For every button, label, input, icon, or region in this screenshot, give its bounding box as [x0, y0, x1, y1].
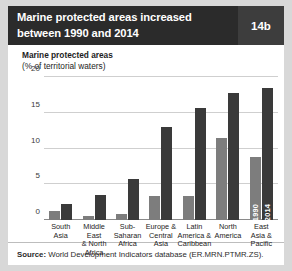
x-axis-category-label-line: Caribbean [178, 240, 212, 249]
bar-inline-label-2014: 2014 [263, 204, 272, 221]
bar-group [178, 77, 211, 220]
bar-2014[interactable] [161, 127, 172, 220]
chart-area: Marine protected areas (% of territorial… [8, 45, 284, 242]
y-axis-tick-label: 10 [31, 135, 40, 144]
x-axis-category-label: Europe &CentralAsia [144, 223, 177, 257]
x-axis-category-label-line: America [211, 232, 244, 241]
y-axis-tick-label: 0 [36, 207, 40, 216]
y-axis-tick-label: 20 [31, 64, 40, 73]
x-axis-category-label: Sub-SaharanAfrica [111, 223, 144, 257]
bar-1990[interactable] [149, 196, 160, 220]
bar-1990[interactable] [116, 214, 127, 220]
bar-1990[interactable] [216, 138, 227, 220]
bar-1990[interactable] [183, 196, 194, 220]
title-line-2: between 1990 and 2014 [17, 26, 232, 42]
bar-group: 19902014 [245, 77, 278, 220]
bar-group [77, 77, 110, 220]
bar-2014[interactable] [95, 195, 106, 220]
y-axis-tick-label: 5 [36, 171, 40, 180]
bar-1990[interactable] [49, 211, 60, 220]
x-axis-labels: SouthAsiaMiddle East& NorthAfricaSub-Sah… [44, 223, 278, 257]
bar-2014[interactable] [61, 204, 72, 220]
x-axis-category-label-line: Africa [111, 240, 144, 249]
bar-1990[interactable]: 1990 [250, 157, 261, 220]
plot-region: 05101520 19902014 [44, 77, 278, 220]
bar-inline-label-1990: 1990 [251, 204, 260, 221]
page-title: Marine protected areas increased between… [17, 10, 232, 41]
axis-title-line-1: Marine protected areas [22, 50, 113, 61]
bar-2014[interactable] [228, 93, 239, 220]
figure-header: Marine protected areas increased between… [8, 6, 284, 45]
figure-number-badge: 14b [238, 6, 284, 45]
bar-2014[interactable] [128, 179, 139, 220]
bar-group [111, 77, 144, 220]
x-axis-category-label-line: Pacific [245, 240, 278, 249]
y-axis-tick-label: 15 [31, 99, 40, 108]
source-label: Source: [17, 250, 46, 259]
bar-group [211, 77, 244, 220]
title-line-1: Marine protected areas increased [17, 10, 232, 26]
x-axis-category-label: NorthAmerica [211, 223, 244, 257]
x-axis-category-label: Middle East& NorthAfrica [77, 223, 110, 257]
bar-group [144, 77, 177, 220]
bar-group [44, 77, 77, 220]
bar-2014[interactable] [195, 108, 206, 220]
x-axis-category-label-line: Asia [144, 240, 177, 249]
x-axis-category-label-line: Asia [44, 232, 77, 241]
bar-groups: 19902014 [44, 77, 278, 220]
x-axis-category-label: EastAsia &Pacific [245, 223, 278, 257]
x-axis-category-label-line: Africa [77, 249, 110, 258]
bar-2014[interactable]: 2014 [262, 88, 273, 220]
x-axis-category-label-line: Middle East [77, 223, 110, 240]
bar-1990[interactable] [83, 216, 94, 220]
figure-panel: Marine protected areas increased between… [8, 6, 284, 265]
x-axis-category-label: SouthAsia [44, 223, 77, 257]
x-axis-category-label: LatinAmerica &Caribbean [178, 223, 212, 257]
